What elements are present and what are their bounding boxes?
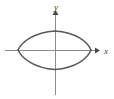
figure-canvas: y x	[0, 0, 114, 99]
math-figure-lens-curve: y x	[0, 0, 114, 99]
curve-upper-arc	[18, 31, 91, 50]
x-axis-arrow-icon	[95, 48, 100, 54]
x-axis-label: x	[103, 46, 108, 56]
y-axis-label: y	[53, 2, 58, 12]
curve-lower-arc	[18, 50, 91, 70]
